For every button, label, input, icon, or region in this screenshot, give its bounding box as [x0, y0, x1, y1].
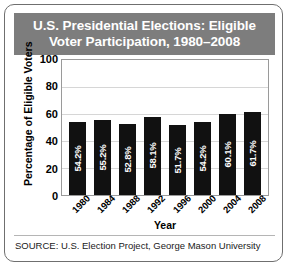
bar-value-label: 55.2%: [97, 145, 108, 171]
bar-series: 54.2%55.2%52.8%58.1%51.7%54.2%60.1%61.7%: [62, 60, 268, 195]
chart-title-band: U.S. Presidential Elections: Eligible Vo…: [14, 13, 275, 55]
chart-card: U.S. Presidential Elections: Eligible Vo…: [4, 4, 283, 262]
y-axis-tick: 20: [46, 163, 58, 175]
page-title: U.S. Presidential Elections: Eligible Vo…: [33, 18, 256, 50]
y-axis-tick: 100: [40, 53, 58, 65]
y-axis-tick: 40: [46, 135, 58, 147]
bar-value-label: 54.2%: [72, 145, 83, 171]
bar: 61.7%: [244, 112, 261, 195]
y-axis-tick: 60: [46, 108, 58, 120]
y-axis-tick: 80: [46, 80, 58, 92]
bar-value-label: 51.7%: [172, 147, 183, 173]
bar: 52.8%: [119, 124, 136, 195]
bar: 55.2%: [94, 120, 111, 195]
plot-area: 54.2%55.2%52.8%58.1%51.7%54.2%60.1%61.7%: [61, 59, 269, 196]
source-note: SOURCE: U.S. Election Project, George Ma…: [15, 240, 277, 251]
y-axis-tick: 0: [52, 190, 58, 202]
chart-region: Percentage of Eligible Voters 100 80 60 …: [14, 59, 275, 234]
bar: 58.1%: [144, 117, 161, 195]
source-divider: [14, 235, 275, 236]
bar: 51.7%: [169, 125, 186, 195]
bar: 60.1%: [219, 114, 236, 195]
bar-value-label: 60.1%: [222, 141, 233, 167]
bar: 54.2%: [194, 122, 211, 195]
y-axis-ticks: 100 80 60 40 20 0: [32, 59, 58, 196]
bar-value-label: 58.1%: [147, 143, 158, 169]
bar-value-label: 54.2%: [197, 145, 208, 171]
x-axis-label: Year: [61, 219, 269, 231]
bar-value-label: 52.8%: [122, 146, 133, 172]
bar: 54.2%: [69, 122, 86, 195]
bar-value-label: 61.7%: [247, 140, 258, 166]
